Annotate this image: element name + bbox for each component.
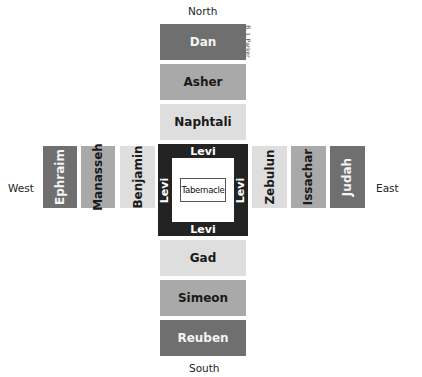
tribe-label: Dan	[190, 35, 217, 49]
levi-bottom-label: Levi	[158, 222, 248, 236]
south-label: South	[189, 362, 220, 374]
levi-right-label: Levi	[234, 158, 248, 222]
tribe-label: Simeon	[178, 291, 228, 305]
tabernacle-label: Tabernacle	[180, 178, 226, 202]
tribe-zebulun: Zebulun	[252, 146, 287, 208]
tribe-label: Ephraim	[53, 149, 67, 205]
north-label: North	[188, 5, 217, 17]
tribe-label: Asher	[183, 75, 222, 89]
tribe-label: Manasseh	[91, 143, 105, 211]
tribe-label: Judah	[341, 158, 355, 196]
tribe-naphtali: Naphtali	[160, 104, 246, 140]
tribe-label: Reuben	[177, 331, 228, 345]
levi-top-label: Levi	[158, 144, 248, 158]
tribe-reuben: Reuben	[160, 320, 246, 356]
tribe-gad: Gad	[160, 240, 246, 276]
tabernacle-court: Tabernacle	[172, 158, 234, 222]
tribe-ephraim: Ephraim	[43, 146, 77, 208]
tribe-judah: Judah	[330, 146, 365, 208]
west-label: West	[8, 182, 34, 194]
levi-left-label: Levi	[158, 158, 172, 222]
tribe-label: Naphtali	[174, 115, 231, 129]
tribe-asher: Asher	[160, 64, 246, 100]
tribe-benjamin: Benjamin	[120, 146, 155, 208]
levi-camp: Levi Levi Levi Levi Tabernacle	[158, 144, 248, 236]
tribe-manasseh: Manasseh	[81, 146, 115, 208]
tribe-label: Zebulun	[263, 149, 277, 204]
tribe-label: Issachar	[302, 149, 316, 206]
tribe-label: Gad	[190, 251, 217, 265]
tribe-simeon: Simeon	[160, 280, 246, 316]
tribe-dan: Dan	[160, 24, 246, 60]
east-label: East	[376, 182, 399, 194]
tribe-issachar: Issachar	[291, 146, 326, 208]
tribe-label: Benjamin	[131, 145, 145, 208]
